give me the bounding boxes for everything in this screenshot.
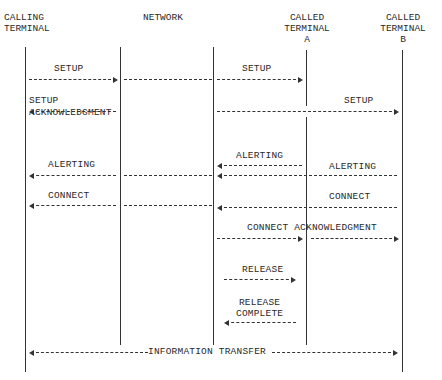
msg-setup-a-label: SETUP xyxy=(242,63,272,74)
msg-alerting-b-label: ALERTING xyxy=(329,161,376,172)
arrow-release xyxy=(224,279,294,280)
msg-release-label: RELEASE xyxy=(242,264,283,275)
msg-connect-ack-label: CONNECT ACKNOWLEDGMENT xyxy=(247,222,377,233)
arrow-connect-ack-1 xyxy=(217,238,301,239)
msg-setup-b-label: SETUP xyxy=(344,95,374,106)
arrow-info-transfer-left xyxy=(31,352,148,353)
arrow-alerting-net xyxy=(124,175,212,176)
participant-called-terminal-b: CALLED TERMINAL B xyxy=(378,12,428,45)
msg-alerting-label: ALERTING xyxy=(48,159,95,170)
arrow-connect-net xyxy=(124,205,212,206)
arrow-setup-net xyxy=(124,79,212,80)
lifeline-network-right xyxy=(213,47,214,345)
arrow-connect-ack-2 xyxy=(311,238,397,239)
participant-called-terminal-a: CALLED TERMINAL A xyxy=(282,12,332,45)
lifeline-called-a xyxy=(306,50,307,106)
participant-network: NETWORK xyxy=(143,12,183,23)
arrow-setup-a xyxy=(217,79,301,80)
arrow-release-complete xyxy=(226,322,296,323)
msg-setup-ack-label: SETUP ACKNOWLEDGMENT xyxy=(29,95,112,119)
arrow-alerting-a xyxy=(219,165,302,166)
arrow-connect xyxy=(31,205,116,206)
arrow-setup-ack xyxy=(31,111,116,112)
lifeline-calling xyxy=(25,47,26,372)
msg-connect-b-label: CONNECT xyxy=(329,191,370,202)
lifeline-network-left xyxy=(120,47,121,345)
arrow-setup-b xyxy=(217,111,397,112)
msg-connect-label: CONNECT xyxy=(48,190,89,201)
msg-info-transfer-label: INFORMATION TRANSFER xyxy=(148,346,266,357)
arrow-connect-b xyxy=(219,207,397,208)
arrow-alerting xyxy=(31,175,116,176)
arrow-alerting-b xyxy=(219,175,397,176)
msg-setup-label: SETUP xyxy=(54,63,84,74)
participant-calling-terminal: CALLING TERMINAL xyxy=(4,12,50,34)
arrow-info-transfer-right xyxy=(272,352,396,353)
msg-alerting-a-label: ALERTING xyxy=(236,150,283,161)
msg-release-complete-label: RELEASE COMPLETE xyxy=(236,297,283,319)
arrow-setup-1 xyxy=(29,79,116,80)
lifeline-called-b xyxy=(402,50,403,372)
setup-ack-text: SETUP ACKNOWLEDGMENT xyxy=(29,95,112,118)
